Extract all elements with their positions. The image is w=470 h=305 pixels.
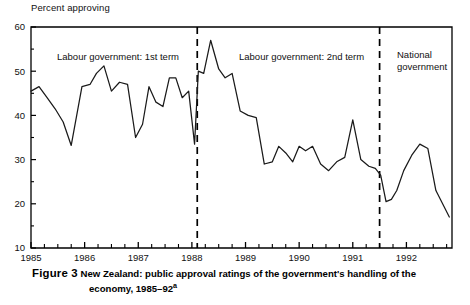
x-tick-label: 1989 (235, 252, 256, 263)
approval-rating-line (31, 40, 449, 217)
figure-caption-line2-wrap: economy, 1985–92a (89, 280, 462, 295)
x-tick-label: 1991 (342, 252, 363, 263)
y-tick-label: 50 (14, 66, 25, 77)
x-tick-label: 1986 (74, 252, 95, 263)
x-tick-label: 1992 (396, 252, 417, 263)
x-tick-label: 1988 (181, 252, 202, 263)
figure-caption-line1: New Zealand: public approval ratings of … (81, 268, 416, 279)
annotation-labour-1st-term: Labour government: 1st term (57, 51, 179, 62)
y-tick-label: 60 (14, 21, 25, 32)
annotation-labour-2nd-term: Labour government: 2nd term (239, 51, 364, 62)
figure-caption-line2: economy, 1985–92 (89, 283, 173, 294)
chart-plot: 6050403020101985198619871988198919901991… (0, 0, 470, 305)
y-tick-label: 20 (14, 198, 25, 209)
figure-number: Figure 3 (32, 267, 78, 279)
y-tick-label: 40 (14, 110, 25, 121)
x-tick-label: 1987 (128, 252, 149, 263)
figure-caption: Figure 3 New Zealand: public approval ra… (32, 267, 462, 296)
annotation-national-government-line1: National (397, 49, 432, 60)
y-tick-label: 30 (14, 154, 25, 165)
figure-container: Percent approving 6050403020101985198619… (0, 0, 470, 305)
annotation-national-government-line2: government (397, 61, 448, 72)
x-tick-label: 1985 (20, 252, 41, 263)
footnote-marker: a (173, 281, 177, 290)
x-tick-label: 1990 (289, 252, 310, 263)
